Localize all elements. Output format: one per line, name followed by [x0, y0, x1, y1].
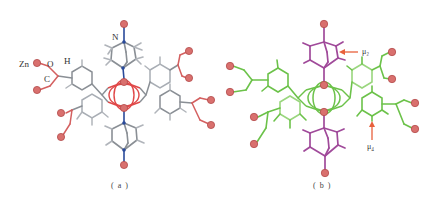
panel-a-ligand-right — [145, 52, 209, 124]
zinc-atom — [185, 74, 192, 81]
panel-b-arrows — [339, 49, 375, 140]
zinc-atom — [321, 169, 328, 176]
zinc-atom — [207, 121, 214, 128]
mu4-arrowhead — [369, 121, 375, 127]
label-n: N — [112, 33, 119, 42]
zinc-atom — [250, 113, 257, 120]
label-zn: Zn — [19, 60, 29, 69]
zinc-atom — [33, 86, 40, 93]
panel-a-caption: ( a ) — [111, 182, 129, 190]
zinc-atom — [57, 109, 64, 116]
panel-b-ligand-left — [233, 60, 306, 142]
panel-b-dabco-upper — [303, 27, 345, 82]
panel-a-ligand-left — [39, 60, 108, 135]
zinc-atom — [57, 133, 64, 140]
zinc-atom — [320, 81, 327, 88]
zinc-atom — [120, 78, 127, 85]
label-h: H — [64, 57, 71, 66]
zinc-atom — [320, 108, 327, 115]
panel-b-dabco-lower — [303, 115, 345, 170]
zinc-atom — [411, 99, 418, 106]
zinc-atom — [320, 20, 327, 27]
panel-a-dabco-upper — [104, 27, 143, 79]
zinc-atom — [250, 140, 257, 147]
zinc-atom — [226, 62, 233, 69]
zinc-atom — [388, 75, 395, 82]
label-o: O — [47, 60, 54, 69]
zinc-atom — [33, 59, 40, 66]
zinc-atom — [388, 48, 395, 55]
zinc-atom — [185, 47, 192, 54]
zinc-atom — [207, 96, 214, 103]
panel-b-ligand-right — [347, 52, 412, 128]
zinc-atom — [120, 104, 127, 111]
zinc-atom — [411, 125, 418, 132]
panel-b-structure — [226, 20, 418, 176]
panel-a-dabco-lower — [105, 111, 144, 162]
panel-b-zinc-atoms — [226, 20, 418, 176]
zinc-atom — [226, 88, 233, 95]
mu2-arrowhead — [339, 49, 345, 55]
molecular-structure-figure — [0, 0, 436, 202]
panel-a-structure — [33, 20, 214, 168]
label-mu4: μ₄ — [367, 143, 374, 151]
panel-b-caption: ( b ) — [313, 182, 331, 190]
label-c: C — [44, 75, 50, 84]
label-mu2: μ₂ — [362, 48, 369, 56]
zinc-atom — [120, 161, 127, 168]
zinc-atom — [120, 20, 127, 27]
